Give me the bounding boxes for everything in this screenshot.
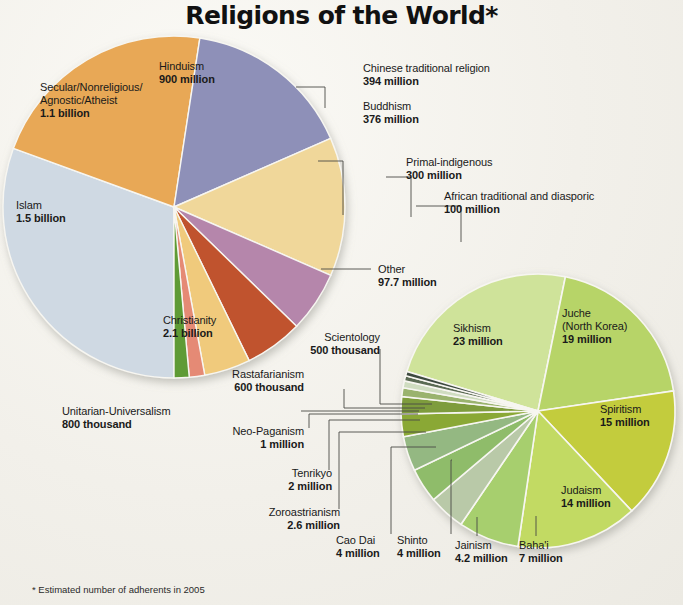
label-african-traditional-name: African traditional and diasporic	[444, 190, 594, 203]
label-primal-indigenous-name: Primal-indigenous	[406, 156, 492, 169]
label-spiritism-value: 15 million	[600, 416, 650, 429]
label-sikhism: Sikhism 23 million	[453, 322, 503, 348]
label-unitarian-universalism: Unitarian-Universalism 800 thousand	[62, 405, 170, 431]
label-buddhism-name: Buddhism	[363, 100, 419, 113]
label-tenrikyo: Tenrikyo 2 million	[192, 467, 332, 493]
label-hinduism-value: 900 million	[159, 73, 215, 86]
label-sikhism-name: Sikhism	[453, 322, 503, 335]
label-shinto-name: Shinto	[397, 534, 441, 547]
label-islam-name: Islam	[16, 199, 66, 212]
label-islam-value: 1.5 billion	[16, 212, 66, 225]
page-title: Religions of the World*	[0, 1, 683, 30]
label-cao-dai-name: Cao Dai	[336, 534, 380, 547]
footnote: * Estimated number of adherents in 2005	[32, 584, 205, 595]
label-christianity-value: 2.1 billion	[163, 327, 216, 340]
label-neo-paganism-name: Neo-Paganism	[152, 425, 304, 438]
label-african-traditional: African traditional and diasporic 100 mi…	[444, 190, 594, 216]
label-shinto: Shinto 4 million	[397, 534, 441, 560]
label-primal-indigenous: Primal-indigenous 300 million	[406, 156, 492, 182]
label-secular: Secular/Nonreligious/ Agnostic/Atheist 1…	[40, 81, 142, 120]
infographic-canvas: Christianity — 2.1 billionIslam — 1.5 bi…	[0, 0, 683, 605]
label-shinto-value: 4 million	[397, 547, 441, 560]
label-unitarian-universalism-name: Unitarian-Universalism	[62, 405, 170, 418]
label-unitarian-universalism-value: 800 thousand	[62, 418, 170, 431]
label-secular-value: 1.1 billion	[40, 107, 142, 120]
label-christianity: Christianity 2.1 billion	[163, 314, 216, 340]
label-jainism: Jainism 4.2 million	[455, 539, 508, 565]
label-bahai-name: Baha'i	[519, 539, 563, 552]
label-other-value: 97.7 million	[378, 276, 437, 289]
label-spiritism-name: Spiritism	[600, 403, 650, 416]
label-secular-name-line2: Agnostic/Atheist	[40, 94, 142, 107]
label-juche-name-line1: Juche	[562, 307, 627, 320]
label-rastafarianism-name: Rastafarianism	[152, 368, 304, 381]
label-neo-paganism-value: 1 million	[152, 438, 304, 451]
label-chinese-traditional-value: 394 million	[363, 75, 490, 88]
label-hinduism: Hinduism 900 million	[159, 60, 215, 86]
label-neo-paganism: Neo-Paganism 1 million	[152, 425, 304, 451]
label-buddhism: Buddhism 376 million	[363, 100, 419, 126]
label-other: Other 97.7 million	[378, 263, 437, 289]
label-zoroastrianism: Zoroastrianism 2.6 million	[192, 506, 340, 532]
label-spiritism: Spiritism 15 million	[600, 403, 650, 429]
label-tenrikyo-value: 2 million	[192, 480, 332, 493]
label-judaism-value: 14 million	[561, 497, 611, 510]
label-other-name: Other	[378, 263, 437, 276]
label-juche-name-line2: (North Korea)	[562, 320, 627, 333]
label-jainism-name: Jainism	[455, 539, 508, 552]
label-scientology-name: Scientology	[236, 331, 380, 344]
label-cao-dai: Cao Dai 4 million	[336, 534, 380, 560]
label-rastafarianism: Rastafarianism 600 thousand	[152, 368, 304, 394]
label-bahai-value: 7 million	[519, 552, 563, 565]
label-juche: Juche (North Korea) 19 million	[562, 307, 627, 346]
label-sikhism-value: 23 million	[453, 335, 503, 348]
label-juche-value: 19 million	[562, 333, 627, 346]
label-chinese-traditional: Chinese traditional religion 394 million	[363, 62, 490, 88]
label-bahai: Baha'i 7 million	[519, 539, 563, 565]
label-islam: Islam 1.5 billion	[16, 199, 66, 225]
label-scientology: Scientology 500 thousand	[236, 331, 380, 357]
label-zoroastrianism-name: Zoroastrianism	[192, 506, 340, 519]
label-chinese-traditional-name: Chinese traditional religion	[363, 62, 490, 75]
label-tenrikyo-name: Tenrikyo	[192, 467, 332, 480]
label-buddhism-value: 376 million	[363, 113, 419, 126]
label-scientology-value: 500 thousand	[236, 344, 380, 357]
label-primal-indigenous-value: 300 million	[406, 169, 492, 182]
label-secular-name-line1: Secular/Nonreligious/	[40, 81, 142, 94]
label-cao-dai-value: 4 million	[336, 547, 380, 560]
label-rastafarianism-value: 600 thousand	[152, 381, 304, 394]
label-judaism: Judaism 14 million	[561, 484, 611, 510]
label-zoroastrianism-value: 2.6 million	[192, 519, 340, 532]
label-jainism-value: 4.2 million	[455, 552, 508, 565]
label-african-traditional-value: 100 million	[444, 203, 594, 216]
label-hinduism-name: Hinduism	[159, 60, 215, 73]
label-judaism-name: Judaism	[561, 484, 611, 497]
label-christianity-name: Christianity	[163, 314, 216, 327]
